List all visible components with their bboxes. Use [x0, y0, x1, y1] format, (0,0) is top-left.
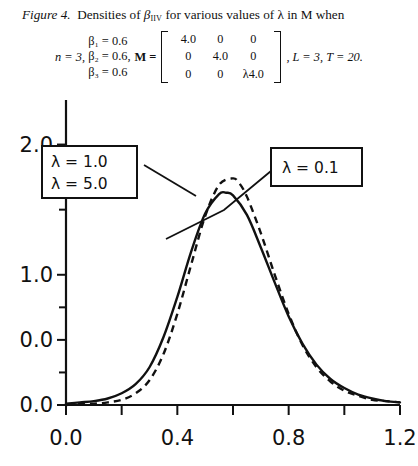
- plot-svg: 2.01.00.00.0 0.00.40.81.2 λ = 1.0 λ = 5.…: [0, 88, 418, 466]
- beta-line-3: β₃ = 0.6: [88, 65, 130, 81]
- y-tick-label: 0.0: [20, 328, 53, 352]
- equation-inner: n = 3, β₁ = 0.6 β₂ = 0.6, β₃ = 0.6 M = 4…: [55, 31, 363, 83]
- matrix-grid: 4.0 0 0 0 4.0 0 0 0 λ4.0: [168, 31, 274, 83]
- beta-line-2: β₂ = 0.6,: [88, 49, 130, 65]
- matrix-cell-r3c3: λ4.0: [235, 67, 271, 82]
- x-tick-label: 0.0: [49, 426, 82, 450]
- matrix-cell-r3c1: 0: [171, 67, 205, 82]
- density-plot: 2.01.00.00.0 0.00.40.81.2 λ = 1.0 λ = 5.…: [0, 88, 418, 466]
- density-curve-lambda-0-1: [66, 178, 400, 405]
- matrix-cell-r1c2: 0: [205, 32, 235, 47]
- equation-row: n = 3, β₁ = 0.6 β₂ = 0.6, β₃ = 0.6 M = 4…: [0, 28, 418, 86]
- x-axis-ticks: [66, 405, 400, 415]
- figure-number: Figure 4.: [22, 7, 71, 22]
- beta-parameter-stack: β₁ = 0.6 β₂ = 0.6, β₃ = 0.6: [88, 34, 130, 81]
- matrix-cell-r1c3: 0: [235, 32, 271, 47]
- x-tick-label: 0.8: [272, 426, 305, 450]
- x-tick-label: 1.2: [383, 426, 416, 450]
- caption-text-before: Densities of: [77, 7, 140, 22]
- leader-line-right-callout: [166, 171, 271, 239]
- lambda-right-callout[interactable]: λ = 0.1: [271, 148, 362, 186]
- matrix-cell-r3c2: 0: [205, 67, 235, 82]
- x-axis-tick-labels: 0.00.40.81.2: [49, 426, 416, 450]
- figure-caption-block: Figure 4. Densities of βIIV for various …: [0, 0, 418, 88]
- matrix-cell-r2c2: 4.0: [205, 49, 235, 64]
- equation-tail-terms: , L = 3, T = 20.: [286, 50, 363, 65]
- lambda-left-callout[interactable]: λ = 1.0 λ = 5.0: [42, 146, 137, 198]
- y-tick-label: 0.0: [20, 393, 53, 417]
- lambda-right-callout-line-1: λ = 0.1: [282, 159, 339, 177]
- caption-line: Figure 4. Densities of βIIV for various …: [22, 7, 402, 27]
- matrix-right-bracket: [274, 31, 281, 83]
- matrix-cell-r2c1: 0: [171, 49, 205, 64]
- lambda-left-callout-line-1: λ = 1.0: [51, 153, 108, 171]
- leader-line-left-callout: [144, 165, 196, 196]
- beta-line-1: β₁ = 0.6: [88, 34, 130, 50]
- equation-n-term: n = 3,: [55, 50, 85, 65]
- caption-text-after: for various values of λ in M when: [165, 7, 344, 22]
- density-curve-lambda-1-0-and-5-0: [66, 192, 400, 404]
- lambda-left-callout-line-2: λ = 5.0: [51, 175, 108, 193]
- matrix-left-bracket: [161, 31, 168, 83]
- matrix-cell-r2c3: 0: [235, 49, 271, 64]
- matrix-m: 4.0 0 0 0 4.0 0 0 0 λ4.0: [161, 31, 281, 83]
- y-tick-label: 1.0: [20, 263, 53, 287]
- caption-symbol-subscript: IIV: [150, 14, 162, 23]
- matrix-label: M =: [135, 50, 157, 65]
- matrix-cell-r1c1: 4.0: [171, 32, 205, 47]
- x-tick-label: 0.4: [161, 426, 194, 450]
